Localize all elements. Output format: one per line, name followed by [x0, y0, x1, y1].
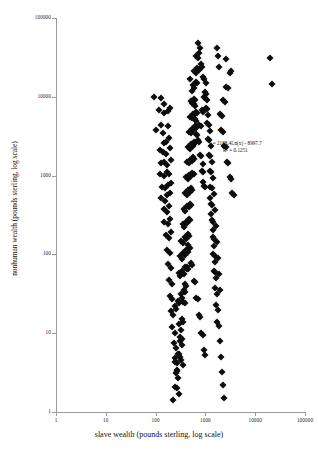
- data-point: [204, 97, 211, 104]
- x-axis-tick-label: 100000: [297, 418, 313, 423]
- data-point: [212, 275, 219, 282]
- y-axis-tick-label: 1: [48, 409, 51, 414]
- data-point: [198, 153, 205, 160]
- data-point: [179, 361, 186, 368]
- y-axis-tick-label: 10000: [38, 94, 51, 99]
- x-axis-tick-mark: [255, 412, 256, 416]
- data-point: [168, 281, 175, 288]
- data-point: [230, 191, 237, 198]
- data-point: [188, 201, 195, 208]
- data-point: [208, 159, 215, 166]
- data-point: [199, 331, 206, 338]
- data-point: [206, 127, 213, 134]
- data-point: [168, 156, 175, 163]
- data-point: [180, 318, 187, 325]
- x-axis-tick-mark: [156, 412, 157, 416]
- data-point: [216, 63, 223, 70]
- data-point: [174, 374, 181, 381]
- data-point: [191, 279, 198, 286]
- data-point: [211, 258, 218, 265]
- x-axis-tick-label: 1: [55, 418, 58, 423]
- data-point: [219, 369, 226, 376]
- data-point: [199, 63, 206, 70]
- data-point: [183, 282, 190, 289]
- data-point: [175, 390, 182, 397]
- regression-equation-annotation: y = 2188.4Ln(x) - 8997.7 R² = 0.1251: [209, 140, 262, 155]
- plot-area: 110100100010000100000 110100100010000100…: [56, 18, 305, 412]
- data-point: [159, 129, 166, 136]
- y-axis-tick-mark: [52, 176, 56, 177]
- data-point: [166, 104, 173, 111]
- data-point: [269, 81, 276, 88]
- data-point: [219, 128, 226, 135]
- data-point: [194, 296, 201, 303]
- data-point: [217, 353, 224, 360]
- data-point: [202, 79, 209, 86]
- data-point: [209, 175, 216, 182]
- data-point: [220, 381, 227, 388]
- x-axis-tick-label: 1000: [200, 418, 211, 423]
- y-axis-tick-label: 10: [46, 331, 51, 336]
- x-axis-tick-mark: [56, 412, 57, 416]
- x-axis-tick-label: 100: [152, 418, 160, 423]
- x-axis-tick-mark: [205, 412, 206, 416]
- data-point: [202, 351, 209, 358]
- data-point: [213, 44, 220, 51]
- x-axis-tick-label: 10000: [248, 418, 261, 423]
- scatter-plot-figure: 110100100010000100000 110100100010000100…: [0, 0, 318, 458]
- x-axis-tick-mark: [106, 412, 107, 416]
- x-axis-title: slave wealth (pounds sterling, log scale…: [0, 430, 318, 439]
- data-point: [189, 186, 196, 193]
- data-point: [205, 112, 212, 119]
- y-axis-tick-mark: [52, 18, 56, 19]
- x-axis-tick-mark: [305, 412, 306, 416]
- data-point: [164, 123, 171, 130]
- data-point: [221, 395, 228, 402]
- data-point: [218, 112, 225, 119]
- y-axis-tick-mark: [52, 254, 56, 255]
- data-point: [214, 307, 221, 314]
- data-point: [225, 160, 232, 167]
- data-point: [215, 52, 222, 59]
- data-point: [216, 337, 223, 344]
- y-axis-title: nonhuman wealth (pounds sterling, log sc…: [10, 109, 19, 309]
- data-point: [223, 56, 230, 63]
- y-axis-tick-label: 1000: [40, 173, 51, 178]
- data-point: [165, 235, 172, 242]
- data-point: [200, 161, 207, 168]
- data-point: [221, 98, 228, 105]
- data-point: [152, 126, 159, 133]
- y-axis-tick-mark: [52, 333, 56, 334]
- y-axis-tick-mark: [52, 97, 56, 98]
- data-point: [267, 55, 274, 62]
- data-point: [213, 291, 220, 298]
- data-point: [170, 397, 177, 404]
- regression-equation-line: y = 2188.4Ln(x) - 8997.7: [209, 140, 262, 147]
- y-axis-tick-label: 100: [43, 252, 51, 257]
- regression-r-squared-line: R² = 0.1251: [209, 147, 262, 154]
- data-point: [166, 170, 173, 177]
- x-axis-tick-label: 10: [103, 418, 108, 423]
- y-axis-tick-label: 100000: [35, 15, 51, 20]
- data-point: [166, 144, 173, 151]
- x-axis-line: [56, 412, 305, 413]
